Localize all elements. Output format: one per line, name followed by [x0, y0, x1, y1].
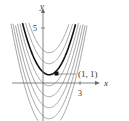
highlighted-parabola	[23, 23, 76, 75]
parabola	[11, 24, 87, 121]
x-axis-arrow-icon	[95, 81, 100, 85]
y-axis-label: y	[39, 1, 44, 11]
point-label: (1, 1)	[78, 69, 98, 79]
x-axis-label: x	[103, 78, 108, 88]
point-marker	[55, 72, 59, 76]
x-tick-label: 3	[78, 89, 82, 98]
chart: x y 3 5 (1, 1)	[0, 0, 129, 121]
y-tick-label: 5	[33, 24, 37, 33]
parabola-family	[11, 23, 87, 121]
